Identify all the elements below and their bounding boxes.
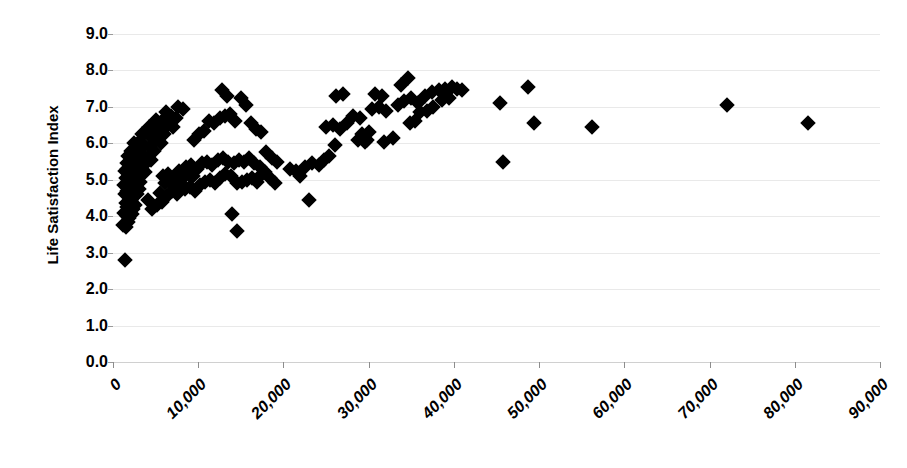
x-axis-tick-label: 70,000 [625,376,721,468]
x-axis-tick-label: 60,000 [539,376,635,468]
x-axis-tick-label: 90,000 [795,376,891,468]
scatter-chart: Life Satisfaction Index 0.01.02.03.04.05… [0,0,907,468]
x-axis-tick-label: 80,000 [710,376,806,468]
x-axis-tick-labels: 010,00020,00030,00040,00050,00060,00070,… [0,0,907,468]
x-axis-tick-label: 40,000 [369,376,465,468]
x-axis-tick-label: 50,000 [454,376,550,468]
x-axis-tick-label: 30,000 [284,376,380,468]
x-axis-tick-label: 10,000 [113,376,209,468]
x-axis-tick-label: 20,000 [199,376,295,468]
x-axis-tick-label: 0 [28,376,124,468]
